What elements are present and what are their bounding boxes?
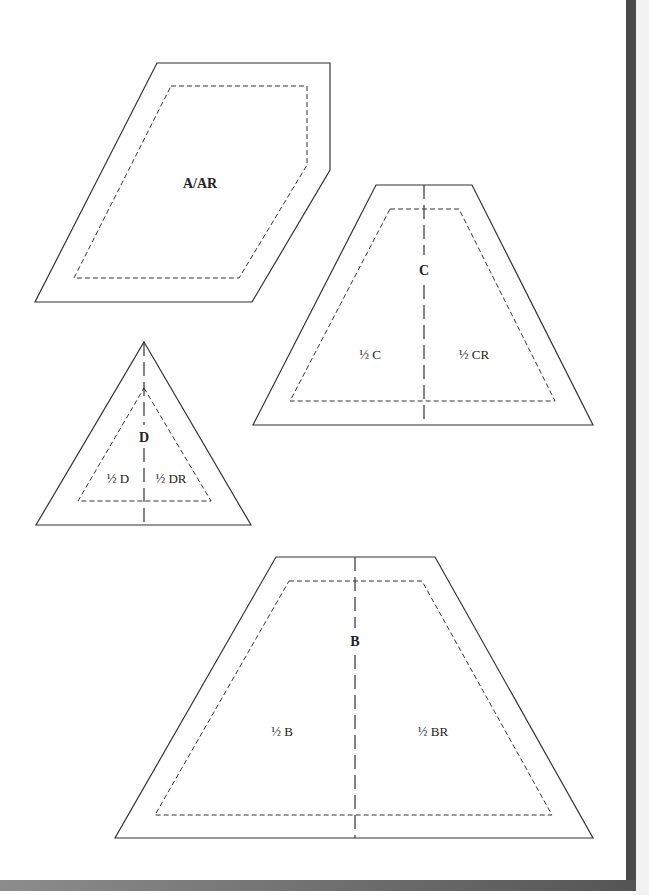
piece-b-half-left-label: ½ B bbox=[271, 724, 293, 739]
piece-c-half-right-label: ½ CR bbox=[459, 347, 490, 362]
page-margin bbox=[636, 0, 649, 895]
piece-c-label: C bbox=[419, 263, 429, 278]
page-border-right bbox=[626, 0, 636, 891]
piece-b-half-right-label: ½ BR bbox=[418, 724, 449, 739]
template-canvas: A/AR C ½ C ½ CR D ½ D ½ DR B ½ B ½ BR bbox=[0, 0, 626, 880]
piece-c-half-left-label: ½ C bbox=[359, 347, 381, 362]
piece-d-label: D bbox=[139, 430, 149, 445]
piece-d: D ½ D ½ DR bbox=[36, 342, 251, 525]
piece-c-seam-line bbox=[290, 209, 555, 401]
piece-c-cut-line bbox=[253, 185, 593, 425]
piece-b: B ½ B ½ BR bbox=[115, 557, 593, 838]
piece-d-half-right-label: ½ DR bbox=[155, 471, 186, 486]
piece-a-ar: A/AR bbox=[35, 63, 330, 302]
page-border-bottom bbox=[0, 880, 636, 891]
piece-b-label: B bbox=[350, 634, 359, 649]
piece-d-half-left-label: ½ D bbox=[107, 471, 129, 486]
piece-a-label: A/AR bbox=[183, 176, 218, 191]
piece-c: C ½ C ½ CR bbox=[253, 185, 593, 425]
piece-b-seam-line bbox=[155, 581, 552, 815]
piece-b-cut-line bbox=[115, 557, 593, 838]
